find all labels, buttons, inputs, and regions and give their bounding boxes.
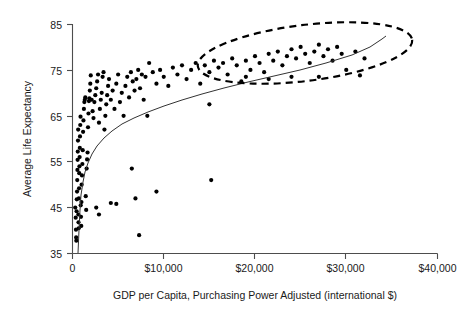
data-point bbox=[289, 47, 293, 51]
data-point bbox=[101, 70, 105, 74]
data-point bbox=[122, 114, 126, 118]
data-point bbox=[253, 54, 257, 58]
data-point bbox=[81, 148, 85, 152]
data-point bbox=[362, 56, 366, 60]
data-point bbox=[303, 52, 307, 56]
data-point bbox=[198, 82, 202, 86]
data-point bbox=[118, 100, 122, 104]
y-tick-label-45: 45 bbox=[50, 202, 62, 214]
data-point bbox=[340, 52, 344, 56]
data-point bbox=[86, 125, 90, 129]
data-point bbox=[235, 63, 239, 67]
chart-page: 85 75 65 55 45 35 0 $10,000 $20,000 $30,… bbox=[0, 0, 476, 311]
y-tick-label-85: 85 bbox=[50, 19, 62, 31]
data-point bbox=[85, 150, 89, 154]
data-point bbox=[138, 86, 142, 90]
data-point bbox=[112, 107, 116, 111]
data-point bbox=[99, 98, 103, 102]
data-point bbox=[86, 111, 90, 115]
data-point bbox=[147, 61, 151, 65]
data-point bbox=[76, 150, 80, 154]
data-point bbox=[94, 86, 98, 90]
data-point bbox=[142, 98, 146, 102]
data-point bbox=[114, 202, 118, 206]
data-point bbox=[171, 66, 175, 70]
data-point bbox=[78, 115, 82, 119]
data-point bbox=[207, 102, 211, 106]
data-point bbox=[90, 109, 94, 113]
data-point bbox=[184, 77, 188, 81]
data-point bbox=[107, 77, 111, 81]
data-point bbox=[140, 72, 144, 76]
data-point bbox=[96, 72, 100, 76]
x-tick-label-20000: $20,000 bbox=[236, 262, 274, 274]
data-point bbox=[131, 79, 135, 83]
data-point bbox=[132, 88, 136, 92]
data-point bbox=[100, 91, 104, 95]
data-point bbox=[83, 95, 87, 99]
data-point bbox=[74, 216, 78, 220]
data-point bbox=[123, 84, 127, 88]
x-tick-label-0: 0 bbox=[70, 262, 76, 274]
data-point bbox=[91, 116, 95, 120]
data-point bbox=[226, 72, 230, 76]
data-point bbox=[137, 233, 141, 237]
data-point bbox=[82, 107, 86, 111]
fit-curve bbox=[78, 36, 386, 253]
data-point bbox=[103, 114, 107, 118]
data-point bbox=[143, 75, 147, 79]
data-point bbox=[116, 72, 120, 76]
data-point bbox=[106, 84, 110, 88]
data-point bbox=[244, 59, 248, 63]
data-point bbox=[154, 82, 158, 86]
data-point bbox=[129, 70, 133, 74]
data-point bbox=[78, 134, 82, 138]
data-point bbox=[75, 178, 79, 182]
data-point bbox=[230, 56, 234, 60]
data-point bbox=[92, 100, 96, 104]
data-point bbox=[76, 127, 80, 131]
data-point bbox=[89, 73, 93, 77]
data-point bbox=[175, 72, 179, 76]
data-points-layer bbox=[73, 43, 366, 243]
data-point bbox=[78, 155, 82, 159]
data-point bbox=[80, 173, 84, 177]
data-point bbox=[154, 189, 158, 193]
data-point bbox=[76, 138, 80, 142]
data-point bbox=[244, 75, 248, 79]
data-point bbox=[162, 75, 166, 79]
data-point bbox=[111, 88, 115, 92]
data-point bbox=[81, 118, 85, 122]
y-tick-label-75: 75 bbox=[50, 65, 62, 77]
y-axis-title: Average Life Expectancy bbox=[21, 80, 33, 197]
data-point bbox=[276, 49, 280, 53]
data-point bbox=[104, 102, 108, 106]
data-point bbox=[267, 52, 271, 56]
data-point bbox=[203, 63, 207, 67]
data-point bbox=[280, 63, 284, 67]
data-point bbox=[221, 61, 225, 65]
y-ticks-group: 85 75 65 55 45 35 bbox=[50, 19, 72, 260]
data-point bbox=[84, 208, 88, 212]
data-point bbox=[101, 75, 105, 79]
data-point bbox=[209, 178, 213, 182]
data-point bbox=[151, 70, 155, 74]
data-point bbox=[262, 70, 266, 74]
data-point bbox=[321, 54, 325, 58]
data-point bbox=[88, 82, 92, 86]
data-point bbox=[76, 220, 80, 224]
data-point bbox=[97, 121, 101, 125]
data-point bbox=[335, 45, 339, 49]
axes-group bbox=[73, 24, 438, 254]
x-axis-title: GDP per Capita, Purchasing Power Adjuste… bbox=[113, 289, 397, 301]
data-point bbox=[105, 93, 109, 97]
data-point bbox=[294, 56, 298, 60]
x-ticks-group: 0 $10,000 $20,000 $30,000 $40,000 bbox=[70, 254, 457, 275]
y-tick-label-65: 65 bbox=[50, 111, 62, 123]
data-point bbox=[207, 70, 211, 74]
data-point bbox=[248, 68, 252, 72]
data-point bbox=[120, 91, 124, 95]
x-tick-label-10000: $10,000 bbox=[145, 262, 183, 274]
data-point bbox=[84, 194, 88, 198]
data-point bbox=[73, 206, 77, 210]
